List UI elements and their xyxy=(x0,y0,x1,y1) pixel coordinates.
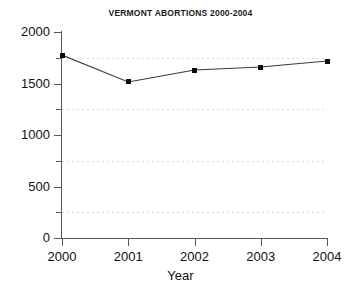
data-point-marker xyxy=(325,59,330,64)
x-axis-tick xyxy=(128,239,129,246)
y-axis-tick-label: 0 xyxy=(0,231,50,244)
x-axis-tick-label: 2003 xyxy=(231,250,291,263)
y-axis-tick xyxy=(54,187,62,188)
x-axis-tick-label: 2001 xyxy=(98,250,158,263)
y-axis-tick xyxy=(54,135,62,136)
x-axis-tick-label: 2002 xyxy=(165,250,225,263)
data-point-marker xyxy=(192,68,197,73)
y-axis-tick xyxy=(54,238,62,239)
x-axis-tick xyxy=(327,239,328,246)
data-point-marker xyxy=(60,53,65,58)
x-axis-tick-label: 2000 xyxy=(32,250,92,263)
chart-container: VERMONT ABORTIONS 2000-2004 050010001500… xyxy=(0,0,361,292)
data-point-marker xyxy=(258,65,263,70)
x-axis-title: Year xyxy=(0,268,361,283)
chart-title: VERMONT ABORTIONS 2000-2004 xyxy=(0,8,361,18)
data-point-marker xyxy=(126,79,131,84)
y-axis-tick xyxy=(54,84,62,85)
y-axis-tick-label: 1000 xyxy=(0,128,50,141)
y-axis-tick-label: 1500 xyxy=(0,77,50,90)
x-axis-tick xyxy=(195,239,196,246)
y-axis-tick-label: 2000 xyxy=(0,25,50,38)
series-line xyxy=(62,32,327,238)
x-axis-tick-label: 2004 xyxy=(297,250,357,263)
x-axis-tick xyxy=(261,239,262,246)
data-series xyxy=(62,32,327,238)
y-axis-tick xyxy=(54,32,62,33)
plot-area xyxy=(62,32,327,238)
y-axis-tick-label: 500 xyxy=(0,180,50,193)
x-axis-tick xyxy=(62,239,63,246)
